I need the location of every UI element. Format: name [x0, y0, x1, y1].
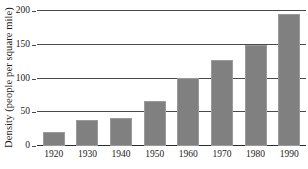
x-tick-label: 1940 — [104, 149, 138, 160]
bar — [211, 60, 233, 146]
y-tick-mark — [32, 11, 36, 12]
y-tick-label: 100 — [16, 74, 30, 84]
y-tick-mark — [32, 79, 36, 80]
x-tick-label: 1920 — [37, 149, 71, 160]
x-tick-label: 1980 — [239, 149, 273, 160]
bar-series — [37, 11, 306, 146]
bar — [245, 45, 267, 146]
x-tick-label: 1990 — [272, 149, 306, 160]
x-tick-label: 1950 — [138, 149, 172, 160]
bar-chart: Density (people per square mile) 0501001… — [0, 0, 308, 169]
x-tick-label: 1960 — [172, 149, 206, 160]
x-tick-label: 1970 — [205, 149, 239, 160]
x-tick-label: 1930 — [71, 149, 105, 160]
bar — [76, 120, 98, 146]
y-tick-mark — [32, 112, 36, 113]
bar — [43, 132, 65, 146]
bar — [144, 101, 166, 146]
plot-area — [37, 11, 306, 146]
x-axis-tick-labels: 19201930194019501960197019801990 — [37, 149, 306, 163]
y-axis-tick-labels: 050100150200 — [8, 0, 30, 169]
bar — [278, 14, 300, 146]
y-tick-label: 150 — [16, 40, 30, 50]
y-tick-mark — [32, 45, 36, 46]
y-tick-mark — [32, 146, 36, 147]
bar — [177, 78, 199, 146]
y-tick-label: 200 — [16, 6, 30, 16]
bar — [110, 118, 132, 146]
y-tick-label: 0 — [25, 141, 30, 151]
y-tick-label: 50 — [21, 107, 31, 117]
